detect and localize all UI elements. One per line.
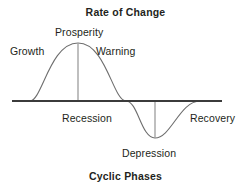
label-prosperity: Prosperity	[55, 26, 103, 38]
label-recession: Recession	[62, 112, 112, 124]
label-growth: Growth	[10, 45, 44, 57]
business-cycle-curve	[30, 43, 200, 138]
label-warning: Warning	[96, 45, 135, 57]
label-recovery: Recovery	[190, 112, 235, 124]
chart-title-bottom: Cyclic Phases	[0, 170, 251, 183]
cyclic-phases-figure: Rate of Change Growth Prosperity Warning…	[0, 0, 251, 189]
label-depression: Depression	[122, 147, 176, 159]
cycle-curve-graphic	[0, 0, 251, 189]
